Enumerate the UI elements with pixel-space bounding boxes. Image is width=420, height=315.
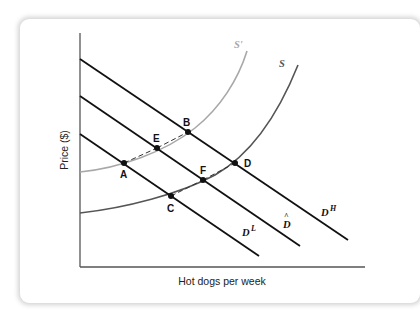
curve-label-dh: D H <box>320 204 337 218</box>
point-e <box>154 145 160 151</box>
point-a <box>121 160 127 166</box>
point-f-label: F <box>200 165 206 176</box>
dashed-segment-a-e <box>124 148 157 163</box>
point-a-label: A <box>120 169 127 180</box>
svg-text:L: L <box>250 224 256 233</box>
point-c <box>168 193 174 199</box>
demand-curve-dh <box>80 59 348 240</box>
svg-text:^: ^ <box>284 212 289 221</box>
point-d <box>232 160 238 166</box>
point-d-label: D <box>244 158 251 169</box>
svg-text:D: D <box>241 227 250 238</box>
dashed-segment-e-b <box>157 132 188 148</box>
curve-label-dhat: D ^ <box>282 212 291 230</box>
y-axis-label: Price ($) <box>58 130 70 170</box>
point-e-label: E <box>153 133 160 144</box>
svg-text:D: D <box>320 207 329 218</box>
svg-text:H: H <box>329 204 337 213</box>
supply-curve-s <box>80 65 298 213</box>
point-b-label: B <box>183 117 190 128</box>
curve-label-s: S <box>279 58 285 69</box>
x-axis-label: Hot dogs per week <box>178 275 266 287</box>
point-c-label: C <box>167 203 174 214</box>
curve-label-dl: D L <box>241 224 256 238</box>
point-b <box>185 129 191 135</box>
curve-label-s-prime: S' <box>234 39 243 50</box>
point-f <box>200 177 206 183</box>
